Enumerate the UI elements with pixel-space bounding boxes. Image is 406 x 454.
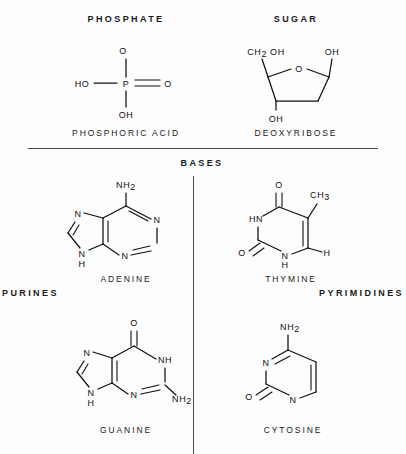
atom-label-n3-guanine: N	[130, 390, 137, 400]
section-heading-sugar: SUGAR	[274, 14, 319, 24]
atom-label-ch3-thymine: CH3	[310, 190, 330, 202]
atom-label-o-ring: O	[295, 64, 303, 74]
cytosine-structure: NH2 N O N	[244, 320, 349, 406]
caption-deoxyribose: DEOXYRIBOSE	[255, 128, 338, 138]
section-heading-bases: BASES	[180, 158, 223, 168]
atom-label-o6-guanine: O	[130, 318, 138, 328]
atom-label-n7-adenine: N	[74, 209, 81, 219]
vertical-divider	[193, 176, 194, 454]
atom-label-oh-bottom-left: OH	[269, 114, 284, 124]
atom-label-h9-adenine: H	[78, 259, 85, 269]
atom-label-nh2-cytosine: NH2	[280, 322, 300, 334]
atom-label-h6-thymine: H	[323, 248, 330, 258]
atom-label-oh-top-right: OH	[325, 47, 340, 57]
atom-label-nh2-adenine: NH2	[116, 180, 136, 192]
guanine-structure: O NH N NH2 N N H	[72, 316, 187, 408]
atom-label-n9-adenine: N	[78, 249, 85, 259]
phosphoric-acid-structure: O HO P O OH	[70, 44, 190, 119]
atom-label-o-top: O	[119, 46, 127, 56]
atom-label-n1-adenine: N	[153, 215, 160, 225]
section-heading-phosphate: PHOSPHATE	[88, 14, 165, 24]
caption-cytosine: CYTOSINE	[264, 425, 323, 435]
atom-label-ch2oh: CH2 OH	[247, 47, 285, 59]
atom-label-n1-cytosine: N	[289, 395, 296, 405]
horizontal-divider	[28, 148, 378, 149]
thymine-structure: O HN O N H CH3 H	[238, 178, 348, 268]
atom-label-o4-thymine: O	[275, 180, 283, 190]
atom-label-o2-cytosine: O	[245, 392, 253, 402]
atom-label-n7-guanine: N	[83, 348, 90, 358]
group-label-purines: PURINES	[2, 288, 59, 298]
atom-label-o2-thymine: O	[238, 248, 246, 258]
caption-phosphoric-acid: PHOSPHORIC ACID	[72, 128, 180, 138]
caption-adenine: ADENINE	[100, 274, 151, 284]
atom-label-nh2-guanine: NH2	[172, 394, 192, 406]
caption-guanine: GUANINE	[100, 425, 152, 435]
atom-label-oh-bottom: OH	[119, 110, 134, 120]
group-label-pyrimidines: PYRIMIDINES	[319, 288, 404, 298]
atom-label-o-right: O	[164, 79, 172, 89]
adenine-structure: NH2 N N N N H	[62, 178, 172, 268]
atom-label-n3-cytosine: N	[262, 358, 269, 368]
deoxyribose-structure: CH2 OH OH O OH	[244, 44, 356, 124]
atom-label-n9-guanine: N	[87, 388, 94, 398]
atom-label-n1-guanine: NH	[158, 355, 172, 365]
caption-thymine: THYMINE	[265, 274, 317, 284]
atom-label-p-center: P	[123, 79, 130, 89]
atom-label-h9-guanine: H	[87, 398, 94, 408]
atom-label-ho-left: HO	[75, 79, 90, 89]
atom-label-hn3-thymine: HN	[249, 214, 263, 224]
atom-label-n3-adenine: N	[121, 251, 128, 261]
figure-canvas: PHOSPHATE SUGAR O HO P O OH CH2 OH OH O …	[0, 0, 406, 454]
atom-label-h1-thymine: H	[281, 260, 288, 270]
